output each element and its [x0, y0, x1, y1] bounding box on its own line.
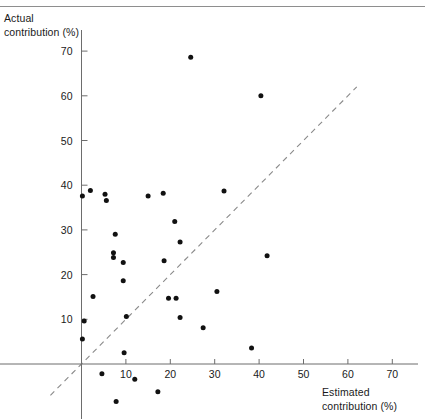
data-point — [122, 350, 127, 355]
data-point — [249, 345, 254, 350]
x-tick-label: 10 — [120, 368, 132, 380]
data-point — [201, 325, 206, 330]
data-point — [132, 377, 137, 382]
data-point — [88, 188, 93, 193]
data-point — [99, 371, 104, 376]
data-point — [121, 278, 126, 283]
data-point — [80, 193, 85, 198]
y-tick-label: 20 — [61, 269, 73, 281]
y-tick-label: 50 — [61, 135, 73, 147]
data-point — [121, 260, 126, 265]
reference-line — [50, 87, 356, 395]
identity-reference-line — [50, 87, 356, 395]
data-point — [104, 198, 109, 203]
data-point — [178, 239, 183, 244]
y-tick-label: 60 — [61, 90, 73, 102]
data-point — [146, 193, 151, 198]
data-point — [258, 93, 263, 98]
data-point — [124, 314, 129, 319]
data-point — [162, 258, 167, 263]
y-tick-label: 10 — [61, 313, 73, 325]
data-point — [114, 399, 119, 404]
data-points — [80, 55, 270, 404]
x-tick-label: 40 — [253, 368, 265, 380]
data-point — [214, 289, 219, 294]
x-tick-label: 70 — [386, 368, 398, 380]
data-point — [111, 255, 116, 260]
x-tick-label: 50 — [298, 368, 310, 380]
plot-canvas: 1020304050607010203040506070 — [0, 0, 425, 419]
scatter-plot-figure: Actual contribution (%) Estimated contri… — [0, 0, 425, 419]
data-point — [155, 389, 160, 394]
x-tick-label: 30 — [209, 368, 221, 380]
data-point — [82, 319, 87, 324]
y-tick-label: 30 — [61, 224, 73, 236]
x-tick-label: 20 — [164, 368, 176, 380]
y-tick-label: 40 — [61, 179, 73, 191]
data-point — [113, 232, 118, 237]
y-tick-label: 70 — [61, 45, 73, 57]
data-point — [80, 336, 85, 341]
data-point — [103, 192, 108, 197]
data-point — [166, 296, 171, 301]
data-point — [161, 191, 166, 196]
data-point — [111, 250, 116, 255]
data-point — [178, 315, 183, 320]
x-tick-label: 60 — [342, 368, 354, 380]
data-point — [174, 296, 179, 301]
data-point — [91, 294, 96, 299]
data-point — [172, 219, 177, 224]
data-point — [188, 55, 193, 60]
data-point — [222, 189, 227, 194]
data-point — [265, 253, 270, 258]
